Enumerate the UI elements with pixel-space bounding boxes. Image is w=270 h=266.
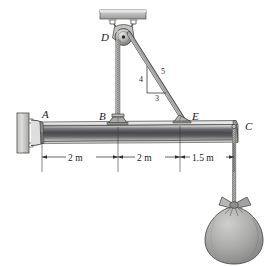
ratio-label-hypotenuse: 5 [161, 67, 165, 76]
horizontal-beam [40, 121, 238, 144]
dimension-label-ec: 1.5 m [192, 153, 214, 163]
statics-figure: D 4 5 3 [0, 0, 270, 266]
dimension-label-be: 2 m [137, 153, 152, 163]
label-point-e: E [191, 110, 199, 122]
label-point-b: B [99, 110, 106, 122]
label-point-d: D [100, 31, 109, 43]
ratio-label-vertical: 4 [139, 75, 143, 84]
bracket-at-e [173, 115, 191, 123]
vertical-cable-d-to-b [116, 40, 120, 124]
suspended-sack [205, 197, 263, 264]
bracket-at-b [107, 114, 128, 125]
ratio-label-horizontal: 3 [155, 94, 159, 103]
dimension-label-ab: 2 m [68, 153, 83, 163]
label-point-a: A [41, 108, 49, 120]
label-point-c: C [245, 120, 253, 132]
inclined-cable-d-to-e [128, 34, 183, 121]
